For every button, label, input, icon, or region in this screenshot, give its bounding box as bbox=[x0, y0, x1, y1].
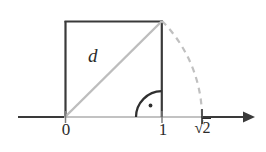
radicand: 2 bbox=[202, 118, 211, 136]
tick-label-sqrt2: √2 bbox=[186, 120, 220, 136]
tick-label-zero: 0 bbox=[57, 121, 75, 138]
right-angle-arc bbox=[136, 91, 162, 117]
compass-arc bbox=[162, 21, 202, 117]
diagonal-line bbox=[65, 21, 162, 117]
tick-label-one: 1 bbox=[154, 121, 172, 138]
geometry-figure: d 0 1 √2 bbox=[0, 0, 266, 152]
diagonal-label: d bbox=[88, 46, 98, 65]
diagram-canvas bbox=[0, 0, 266, 152]
axis-arrow-head bbox=[243, 112, 255, 123]
radical-group: √2 bbox=[195, 120, 212, 136]
right-angle-dot bbox=[149, 104, 153, 108]
